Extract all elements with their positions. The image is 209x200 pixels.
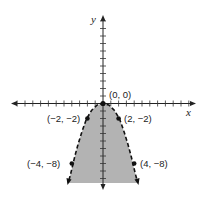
x-axis-label: x xyxy=(185,106,191,118)
x-axis-right-arrow-icon xyxy=(190,101,196,106)
origin-label: (0, 0) xyxy=(109,89,131,100)
point-pos2-label: (2, −2) xyxy=(124,113,152,124)
point-neg4-neg8 xyxy=(70,161,75,166)
point-2-neg2 xyxy=(116,116,121,121)
y-axis-up-arrow-icon xyxy=(101,15,106,21)
point-neg2-label: (−2, −2) xyxy=(47,113,80,124)
point-neg4-label: (−4, −8) xyxy=(27,158,60,169)
y-axis-down-arrow-icon xyxy=(101,184,106,190)
point-neg2-neg2 xyxy=(85,116,90,121)
y-axis-label: y xyxy=(90,13,96,25)
coordinate-plane: y x (0, 0) (−2, −2) (2, −2) (−4, −8) (4,… xyxy=(0,0,209,200)
point-4-neg8 xyxy=(132,161,137,166)
point-origin xyxy=(100,101,105,106)
point-pos4-label: (4, −8) xyxy=(140,158,168,169)
x-axis-left-arrow-icon xyxy=(11,101,17,106)
